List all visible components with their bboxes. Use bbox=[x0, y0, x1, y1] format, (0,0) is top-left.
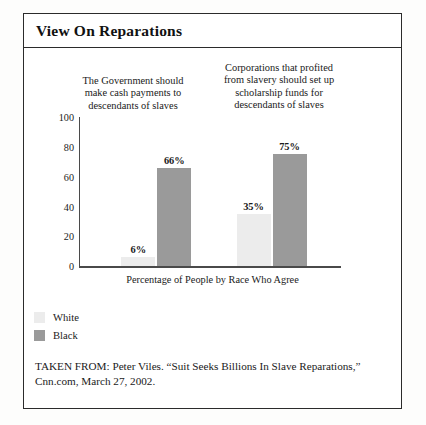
y-axis bbox=[79, 117, 80, 268]
x-axis-label: Percentage of People by Race Who Agree bbox=[24, 274, 401, 285]
plot-area: 020406080100 6%66%35%75% bbox=[79, 117, 341, 268]
citation-line-1: TAKEN FROM: Peter Viles. “Suit Seeks Bil… bbox=[35, 360, 360, 372]
caption-line: Corporations that profited bbox=[204, 62, 354, 74]
citation-line-2: Cnn.com, March 27, 2002. bbox=[35, 375, 155, 387]
caption-line: descendants of slaves bbox=[63, 100, 203, 112]
y-tick-label: 20 bbox=[64, 231, 74, 242]
category-caption-2: Corporations that profited from slavery … bbox=[204, 62, 354, 112]
y-tick-label: 80 bbox=[64, 141, 74, 152]
caption-line: scholarship funds for bbox=[204, 87, 354, 99]
bar-white-group1: 6% bbox=[121, 257, 155, 266]
category-caption-1: The Government should make cash payments… bbox=[63, 75, 203, 112]
legend-item-black: Black bbox=[34, 328, 79, 343]
legend-label: Black bbox=[53, 330, 78, 341]
bar-value-label: 75% bbox=[279, 141, 300, 152]
legend-item-white: White bbox=[34, 310, 79, 325]
bar-value-label: 35% bbox=[243, 201, 264, 212]
y-tick-label: 40 bbox=[64, 201, 74, 212]
y-tick-label: 60 bbox=[64, 171, 74, 182]
legend-swatch-icon bbox=[34, 312, 45, 323]
y-tick-label: 0 bbox=[69, 261, 74, 272]
caption-line: The Government should bbox=[63, 75, 203, 87]
bar-chart: The Government should make cash payments… bbox=[24, 48, 401, 300]
source-citation: TAKEN FROM: Peter Viles. “Suit Seeks Bil… bbox=[35, 359, 393, 389]
caption-line: make cash payments to bbox=[63, 87, 203, 99]
bar-white-group2: 35% bbox=[237, 214, 271, 266]
legend-label: White bbox=[53, 312, 79, 323]
legend-swatch-icon bbox=[34, 330, 45, 341]
caption-line: descendants of slaves bbox=[204, 99, 354, 111]
page-title: View On Reparations bbox=[36, 22, 182, 40]
bar-black-group1: 66% bbox=[157, 168, 191, 266]
bar-value-label: 66% bbox=[164, 155, 185, 166]
x-axis bbox=[79, 266, 341, 268]
bar-value-label: 6% bbox=[130, 244, 146, 255]
caption-line: from slavery should set up bbox=[204, 74, 354, 86]
figure-frame: View On Reparations The Government shoul… bbox=[23, 13, 402, 409]
figure-page: View On Reparations The Government shoul… bbox=[0, 0, 426, 425]
bar-black-group2: 75% bbox=[273, 154, 307, 266]
chart-legend: White Black bbox=[34, 310, 79, 346]
y-tick-label: 100 bbox=[59, 112, 74, 123]
